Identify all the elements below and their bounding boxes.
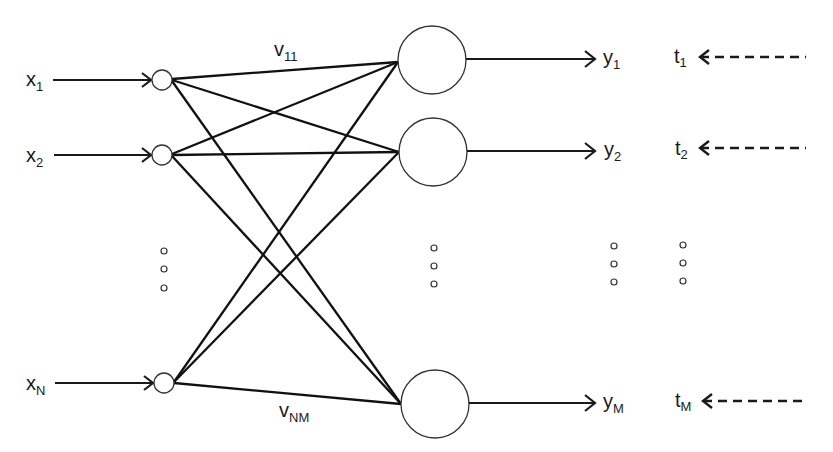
output-label-1: y1 <box>603 46 620 72</box>
input-node-N <box>154 373 174 393</box>
target-label-M: tM <box>675 389 691 414</box>
weight-connections <box>172 62 401 404</box>
input-arrows <box>53 73 153 390</box>
output-nodes <box>398 26 469 438</box>
input-label-N: xN <box>26 372 45 398</box>
input-label-1: x1 <box>26 68 43 94</box>
input-label-2: x2 <box>26 144 43 170</box>
weight-label-v11: v11 <box>274 38 298 64</box>
input-nodes <box>152 70 174 393</box>
output-label-2: y2 <box>604 138 621 164</box>
ellipsis-dots <box>161 242 686 291</box>
neural-network-diagram: x1 x2 xN v11 vNM y1 y2 yM t1 t2 tM <box>0 0 833 452</box>
target-label-1: t1 <box>674 45 687 70</box>
output-node-2 <box>399 118 467 186</box>
output-label-M: yM <box>603 390 624 416</box>
target-arrows <box>700 50 808 408</box>
input-node-1 <box>152 70 172 90</box>
output-arrows <box>466 51 595 411</box>
weight-label-vNM: vNM <box>279 399 309 425</box>
target-label-2: t2 <box>675 137 688 162</box>
input-node-2 <box>152 145 172 165</box>
output-node-M <box>401 370 469 438</box>
output-node-1 <box>398 26 466 94</box>
